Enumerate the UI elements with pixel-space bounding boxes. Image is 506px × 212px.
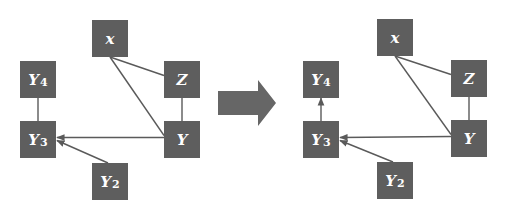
after-node-x: x: [377, 19, 413, 56]
before-node-Y2: Y2: [92, 163, 128, 200]
before-node-Y4: Y4: [20, 61, 56, 98]
before-node-Y3: Y3: [20, 121, 56, 158]
node-subscript: 3: [40, 136, 48, 149]
edge-x-Y: [395, 56, 451, 135]
node-label: x: [106, 30, 115, 48]
node-label: Y: [28, 131, 39, 149]
transform-arrow-icon: [218, 80, 276, 126]
node-label: Y: [28, 71, 39, 89]
after-node-Y: Y: [451, 120, 487, 157]
before-node-x: x: [92, 20, 128, 57]
directed-edge-Y2-Y3: [340, 141, 393, 163]
edge-x-Y: [110, 57, 164, 136]
node-subscript: 2: [112, 178, 120, 191]
after-node-Y4: Y4: [303, 61, 339, 98]
node-subscript: 3: [323, 136, 331, 149]
node-subscript: 2: [397, 177, 405, 190]
before-node-Y: Y: [164, 121, 200, 158]
directed-edge-Y-Y3: [340, 137, 451, 138]
after-node-Y3: Y3: [303, 121, 339, 158]
diagram-canvas: [0, 0, 506, 212]
node-label: Y: [385, 172, 396, 190]
node-subscript: 4: [40, 76, 48, 89]
node-label: Y: [100, 173, 111, 191]
node-label: Y: [464, 130, 475, 148]
after-node-Z: Z: [451, 60, 487, 97]
before-node-Z: Z: [164, 61, 200, 98]
node-label: Y: [177, 131, 188, 149]
directed-edge-Y2-Y3: [57, 141, 108, 164]
after-node-Y2: Y2: [377, 162, 413, 199]
node-label: Z: [464, 70, 475, 88]
node-label: Y: [311, 71, 322, 89]
node-label: Y: [311, 131, 322, 149]
node-label: Z: [177, 71, 188, 89]
node-subscript: 4: [323, 76, 331, 89]
edge-x-Z: [395, 56, 451, 75]
node-label: x: [391, 29, 400, 47]
edge-x-Z: [110, 57, 164, 76]
